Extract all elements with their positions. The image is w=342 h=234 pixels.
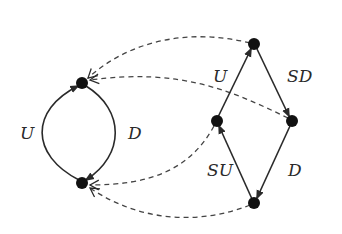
node-T [248,38,260,50]
dashed-edge-R-to-A [90,77,288,118]
node-A [76,77,88,89]
node-L [211,115,223,127]
label-right-sd: SD [287,66,313,86]
commutation-diagram: U D U SD SU D [0,0,342,234]
solid-edges [42,49,290,199]
edge-A-to-B-D [86,86,115,180]
node-Bo [248,197,260,209]
edge-B-to-A-U [42,86,79,180]
dashed-edges [88,37,288,218]
node-B [76,177,88,189]
label-right-u: U [213,66,228,86]
node-R [286,115,298,127]
label-right-d: D [287,160,302,180]
label-left-u: U [20,123,35,143]
dashed-edge-Bo-to-B [90,188,250,217]
label-right-su: SU [207,160,234,180]
edge-R-to-Bo-D [257,126,290,198]
label-left-d: D [127,123,142,143]
